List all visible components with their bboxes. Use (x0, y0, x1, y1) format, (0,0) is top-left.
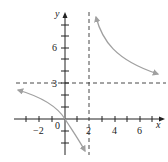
x-tick-label-6: 6 (137, 125, 142, 136)
right-branch-curve (96, 17, 158, 74)
origin-label: 0 (55, 120, 60, 131)
y-tick-label-6: 6 (52, 42, 57, 53)
y-tick-label-3: 3 (52, 78, 57, 89)
x-tick-label-4: 4 (112, 125, 117, 136)
x-tick-label-2: 2 (86, 125, 91, 136)
x-axis-label: x (155, 119, 161, 130)
y-axis-arrow-icon (63, 12, 68, 18)
x-tick-label-neg2: −2 (33, 125, 44, 136)
y-axis-label: y (54, 8, 60, 19)
rational-function-graph: y x 6 3 0 −2 2 4 6 (0, 0, 168, 162)
